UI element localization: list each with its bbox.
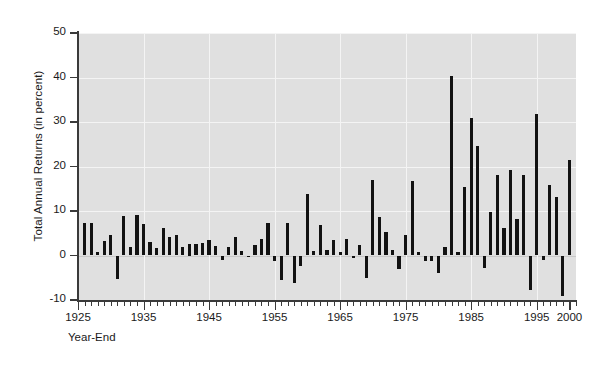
x-tick-minor (576, 301, 577, 306)
x-tick-minor (543, 301, 544, 306)
bar (529, 256, 532, 291)
x-tick-minor (425, 301, 426, 306)
x-tick-minor (438, 301, 439, 306)
x-tick-minor (189, 301, 190, 306)
x-tick-label: 1925 (48, 311, 108, 323)
x-tick-minor (242, 301, 243, 306)
x-axis-title: Year-End (68, 331, 116, 343)
zero-gridline (78, 256, 576, 257)
x-tick-label: 2000 (539, 311, 598, 323)
y-gridline (78, 122, 576, 123)
x-tick-minor (458, 301, 459, 306)
x-tick-minor (176, 301, 177, 306)
bar (312, 251, 315, 255)
bar (168, 237, 171, 256)
x-tick-minor (412, 301, 413, 306)
bar (345, 239, 348, 255)
bar (260, 239, 263, 255)
x-tick-minor (261, 301, 262, 306)
x-tick-minor (524, 301, 525, 306)
y-axis-title: Total Annual Returns (in percent) (32, 31, 44, 281)
x-tick-minor (203, 301, 204, 306)
x-tick-major (209, 301, 210, 310)
bar (548, 185, 551, 256)
bar (463, 187, 466, 256)
y-tick-label: 20 (0, 159, 77, 171)
x-tick-minor (288, 301, 289, 306)
x-tick-minor (517, 301, 518, 306)
x-tick-label: 1965 (310, 311, 370, 323)
bar (424, 256, 427, 261)
x-tick-minor (307, 301, 308, 306)
x-tick-minor (465, 301, 466, 306)
bar (188, 244, 191, 255)
bar (430, 256, 433, 261)
y-gridline (78, 167, 576, 168)
bar (456, 252, 459, 255)
bar (568, 160, 571, 256)
x-tick-minor (235, 301, 236, 306)
x-tick-minor (452, 301, 453, 306)
bar (404, 235, 407, 255)
x-tick-minor (117, 301, 118, 306)
x-tick-major (275, 301, 276, 310)
y-gridline (78, 211, 576, 212)
x-tick-minor (478, 301, 479, 306)
bar (221, 256, 224, 260)
bar (148, 242, 151, 256)
bar (555, 197, 558, 255)
x-tick-minor (294, 301, 295, 306)
bar (411, 181, 414, 256)
x-tick-minor (530, 301, 531, 306)
x-tick-minor (196, 301, 197, 306)
bar (496, 175, 499, 256)
bar (90, 223, 93, 256)
y-tick-label: 40 (0, 70, 77, 82)
x-tick-minor (504, 301, 505, 306)
bar (450, 76, 453, 256)
x-tick-minor (419, 301, 420, 306)
x-tick-minor (255, 301, 256, 306)
bar (122, 216, 125, 255)
bar (207, 240, 210, 255)
bar (483, 256, 486, 268)
x-tick-minor (510, 301, 511, 306)
x-tick-minor (222, 301, 223, 306)
x-tick-minor (85, 301, 86, 306)
y-gridline (78, 33, 576, 34)
bar (391, 250, 394, 255)
bar (515, 219, 518, 255)
bar (470, 118, 473, 256)
x-tick-minor (170, 301, 171, 306)
x-tick-minor (353, 301, 354, 306)
bar (181, 247, 184, 256)
bar (227, 247, 230, 255)
x-tick-label: 1935 (114, 311, 174, 323)
bar (352, 256, 355, 258)
bar (201, 243, 204, 255)
x-tick-label: 1985 (441, 311, 501, 323)
x-tick-major (144, 301, 145, 310)
x-tick-major (78, 301, 79, 310)
x-tick-minor (550, 301, 551, 306)
bar (371, 180, 374, 255)
x-tick-minor (491, 301, 492, 306)
bar (96, 252, 99, 256)
bar (175, 235, 178, 255)
bar (561, 256, 564, 296)
x-tick-minor (111, 301, 112, 306)
x-tick-label: 1955 (245, 311, 305, 323)
x-tick-minor (366, 301, 367, 306)
bar (417, 252, 420, 255)
bar (489, 212, 492, 255)
y-tick-label: -10 (0, 292, 77, 304)
bar (365, 256, 368, 279)
bar (109, 235, 112, 256)
bar (535, 114, 538, 255)
x-tick-major (537, 301, 538, 310)
bar (293, 256, 296, 283)
bar (83, 223, 86, 256)
x-tick-minor (216, 301, 217, 306)
bar (162, 228, 165, 256)
bar (129, 247, 132, 255)
